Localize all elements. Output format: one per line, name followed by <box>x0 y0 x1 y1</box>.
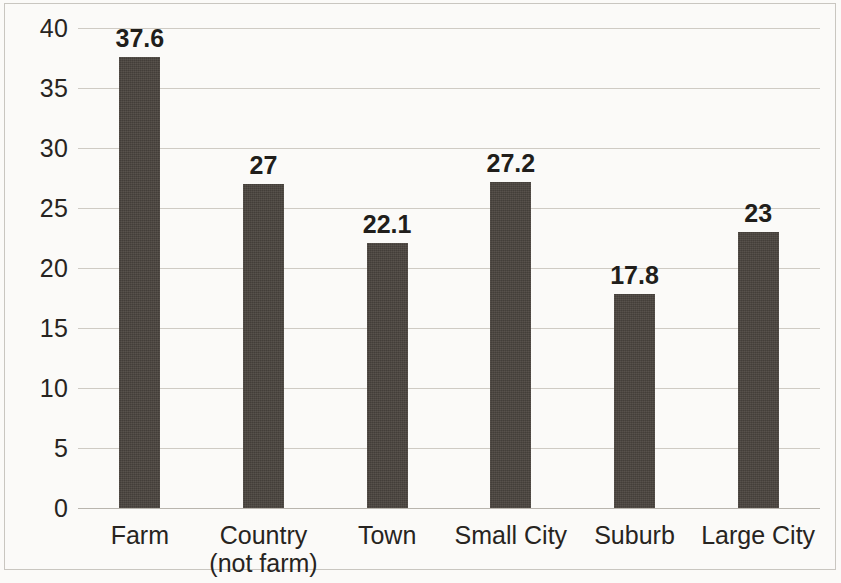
y-axis-tick-labels: 0510152025303540 <box>8 0 68 583</box>
y-tick-label: 20 <box>16 256 68 281</box>
bar <box>367 243 408 508</box>
gridline-15 <box>78 328 820 329</box>
bar-value-label: 37.6 <box>80 26 200 51</box>
bar <box>243 184 284 508</box>
bar-value-label: 17.8 <box>575 263 695 288</box>
gridline-30 <box>78 148 820 149</box>
y-tick-label: 5 <box>16 436 68 461</box>
bar-value-label: 23 <box>698 201 818 226</box>
gridline-10 <box>78 388 820 389</box>
bar <box>490 182 531 508</box>
x-tick-label: Small City <box>449 521 573 549</box>
bar-value-label: 22.1 <box>327 212 447 237</box>
y-tick-label: 40 <box>16 16 68 41</box>
x-tick-label: Suburb <box>573 521 697 549</box>
y-tick-label: 30 <box>16 136 68 161</box>
x-tick-label: Farm <box>78 521 202 549</box>
bar-value-label: 27 <box>204 153 324 178</box>
plot-area: 37.62722.127.217.823 <box>78 28 820 508</box>
x-tick-label: Large City <box>696 521 820 549</box>
y-tick-label: 0 <box>16 496 68 521</box>
bar <box>738 232 779 508</box>
gridline-20 <box>78 268 820 269</box>
y-tick-label: 35 <box>16 76 68 101</box>
bar <box>119 57 160 508</box>
bar-chart-figure: 0510152025303540 37.62722.127.217.823 Fa… <box>0 0 841 583</box>
gridline-35 <box>78 88 820 89</box>
x-tick-label: Country (not farm) <box>202 521 326 577</box>
y-tick-label: 25 <box>16 196 68 221</box>
bar-value-label: 27.2 <box>451 151 571 176</box>
y-tick-label: 15 <box>16 316 68 341</box>
y-tick-label: 10 <box>16 376 68 401</box>
bar <box>614 294 655 508</box>
x-tick-label: Town <box>325 521 449 549</box>
gridline-5 <box>78 448 820 449</box>
gridline-0 <box>78 508 820 509</box>
